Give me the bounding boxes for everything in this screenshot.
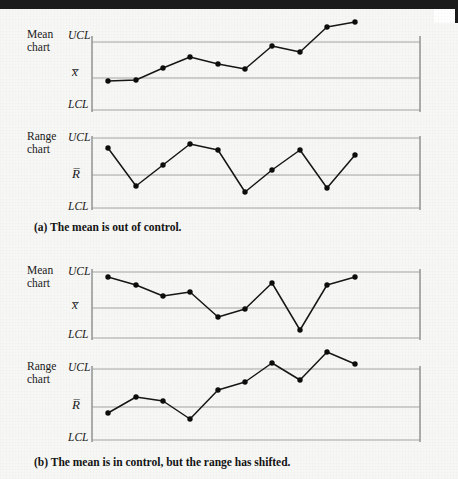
data-point (324, 349, 329, 354)
data-point (324, 282, 329, 287)
data-point (187, 289, 192, 294)
data-point (215, 387, 220, 392)
data-point (297, 327, 302, 332)
data-point (269, 360, 274, 365)
data-point (242, 379, 247, 384)
chart-b-range-series-line (108, 352, 355, 419)
data-point (352, 361, 357, 366)
corner-white-notch (434, 9, 455, 23)
chart-b-range-plot (0, 348, 458, 448)
data-point (297, 377, 302, 382)
data-point (269, 280, 274, 285)
figure-page: Mean chart UCL x̅̅ LCL (0, 0, 458, 479)
data-point (133, 394, 138, 399)
top-black-bar (0, 0, 458, 9)
data-point (242, 306, 247, 311)
chart-b-mean-plot (0, 258, 458, 346)
panel-b: Mean chart UCL x̅̅ LCL (0, 0, 458, 479)
data-point (105, 274, 110, 279)
caption-b: (b) The mean is in control, but the rang… (34, 456, 290, 468)
data-point (187, 416, 192, 421)
data-point (215, 314, 220, 319)
chart-b-mean-series-line (108, 277, 355, 330)
data-point (160, 398, 165, 403)
data-point (160, 293, 165, 298)
data-point (133, 282, 138, 287)
data-point (105, 410, 110, 415)
data-point (352, 274, 357, 279)
chart-b-mean-data-points (105, 274, 357, 332)
